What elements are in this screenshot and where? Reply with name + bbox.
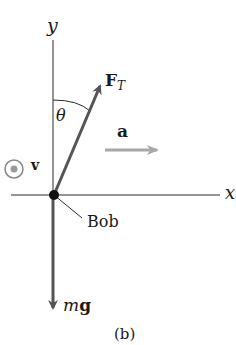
y-axis-label: y xyxy=(46,14,58,36)
weight-label: mg xyxy=(63,295,91,315)
acceleration-label: a xyxy=(117,121,128,141)
bob-label: Bob xyxy=(87,212,119,231)
tension-label-main: F xyxy=(105,70,117,90)
bob-dot xyxy=(49,190,59,200)
velocity-out-of-page-icon xyxy=(5,160,23,178)
tension-label-sub: T xyxy=(117,79,126,93)
weight-label-m: m xyxy=(63,295,79,315)
free-body-diagram: y x θ v FT a Bob mg (b) xyxy=(0,0,236,345)
x-axis-label: x xyxy=(225,182,235,203)
bob-leader-line xyxy=(54,195,82,218)
tension-label: FT xyxy=(105,70,126,93)
theta-label: θ xyxy=(56,106,66,125)
tension-vector xyxy=(54,86,100,195)
figure-caption: (b) xyxy=(114,325,135,343)
weight-label-g: g xyxy=(79,295,91,315)
velocity-label: v xyxy=(30,157,40,173)
